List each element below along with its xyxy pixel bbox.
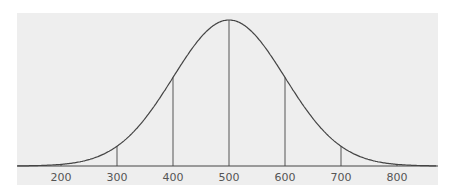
x-tick-label: 200 xyxy=(51,171,72,184)
x-tick-label: 800 xyxy=(387,171,408,184)
x-tick-labels: 200300400500600700800 xyxy=(51,171,408,184)
normal-curve-chart: 200300400500600700800 xyxy=(0,0,455,195)
sd-lines xyxy=(61,20,397,166)
x-tick-label: 500 xyxy=(219,171,240,184)
x-tick-label: 400 xyxy=(163,171,184,184)
bell-curve xyxy=(17,20,436,166)
x-tick-label: 300 xyxy=(107,171,128,184)
x-tick-label: 600 xyxy=(275,171,296,184)
x-tick-label: 700 xyxy=(331,171,352,184)
